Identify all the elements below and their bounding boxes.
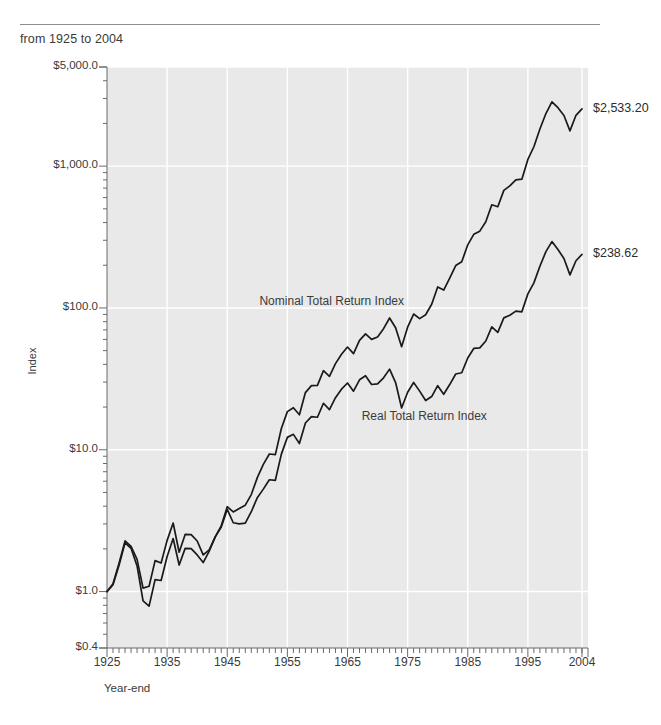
y-tick-label: $1,000.0 xyxy=(53,158,98,170)
x-tick-label: 1985 xyxy=(454,655,481,669)
series-value-label: $238.62 xyxy=(593,246,638,260)
series-value-label: $2,533.20 xyxy=(593,101,649,115)
header-rule xyxy=(20,24,600,25)
x-tick-label: 1975 xyxy=(394,655,421,669)
y-tick-label: $1.0 xyxy=(76,584,98,596)
y-tick-label: $0.4 xyxy=(76,640,98,652)
x-tick-label: 2004 xyxy=(569,655,596,669)
plot-canvas xyxy=(0,0,661,725)
y-tick-label: $100.0 xyxy=(63,300,98,312)
x-tick-label: 1935 xyxy=(154,655,181,669)
x-tick-label: 1965 xyxy=(334,655,361,669)
chart-subtitle: from 1925 to 2004 xyxy=(20,32,123,46)
series-annotation: Real Total Return Index xyxy=(362,409,487,423)
y-tick-label: $10.0 xyxy=(69,442,98,454)
x-tick-label: 1995 xyxy=(515,655,542,669)
x-tick-label: 1955 xyxy=(274,655,301,669)
chart-figure: from 1925 to 2004 Index Year-end $5,000.… xyxy=(0,0,661,725)
x-axis-title: Year-end xyxy=(104,682,150,694)
x-tick-label: 1925 xyxy=(94,655,121,669)
y-tick-label: $5,000.0 xyxy=(53,59,98,71)
x-tick-label: 1945 xyxy=(214,655,241,669)
series-annotation: Nominal Total Return Index xyxy=(259,294,404,308)
y-axis-title: Index xyxy=(26,321,38,401)
